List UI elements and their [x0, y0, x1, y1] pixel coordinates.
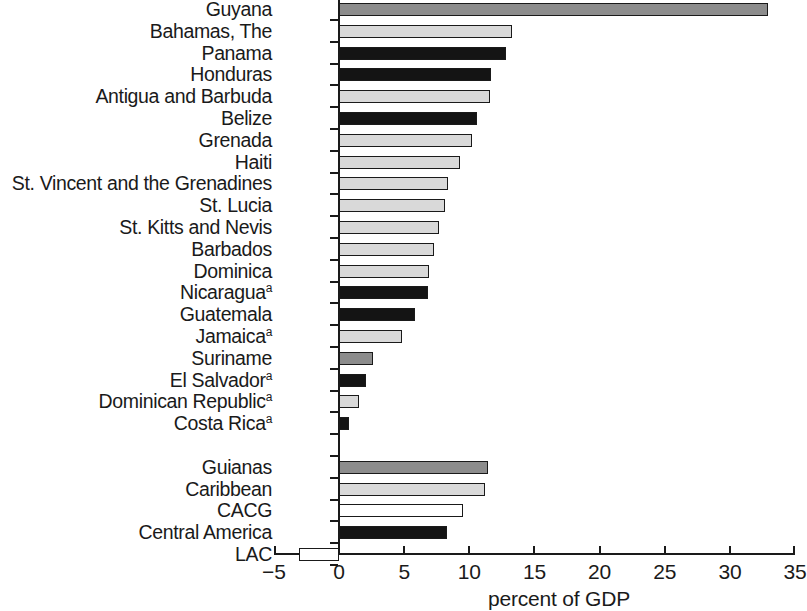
category-label: St. Kitts and Nevis: [119, 217, 272, 237]
y-tick: [330, 390, 338, 392]
footnote-marker: a: [266, 412, 272, 426]
bar: [339, 68, 491, 81]
bar: [339, 47, 506, 60]
category-label: Costa Ricaa: [174, 413, 272, 433]
x-axis-right-cap: [793, 546, 795, 553]
bar: [339, 243, 434, 256]
category-label: Suriname: [191, 348, 272, 368]
y-tick: [330, 41, 338, 43]
category-label: Belize: [221, 108, 272, 128]
y-tick: [330, 128, 338, 130]
bar: [339, 286, 428, 299]
y-tick: [330, 324, 338, 326]
x-tick-label: −5: [244, 561, 304, 583]
y-tick: [330, 19, 338, 21]
y-tick: [330, 106, 338, 108]
y-tick: [330, 499, 338, 501]
bar: [339, 134, 472, 147]
category-label: El Salvadora: [170, 370, 272, 390]
category-label: Caribbean: [185, 479, 272, 499]
bar: [339, 265, 429, 278]
x-tick-label: 20: [570, 561, 630, 583]
x-axis-line: [274, 553, 795, 555]
bar: [339, 25, 512, 38]
category-label: St. Lucia: [199, 195, 272, 215]
y-tick: [330, 477, 338, 479]
bar: [339, 221, 439, 234]
x-tick: [729, 546, 731, 553]
category-label: Guyana: [206, 0, 272, 19]
category-label: Guianas: [202, 457, 272, 477]
bar: [339, 199, 445, 212]
y-tick: [330, 259, 338, 261]
bar: [339, 352, 373, 365]
x-tick: [599, 546, 601, 553]
bar: [339, 330, 402, 343]
bar: [339, 308, 415, 321]
y-tick: [330, 63, 338, 65]
category-label: Central America: [139, 522, 272, 542]
y-tick: [330, 302, 338, 304]
y-tick: [330, 542, 338, 544]
footnote-marker: a: [266, 390, 272, 404]
x-axis-title: percent of GDP: [439, 588, 679, 610]
bar: [339, 90, 490, 103]
y-tick: [330, 193, 338, 195]
x-tick-label: 5: [374, 561, 434, 583]
category-label: Grenada: [199, 130, 272, 150]
y-tick-separator: [330, 455, 338, 457]
category-label: Panama: [201, 43, 272, 63]
category-label: Honduras: [190, 64, 272, 84]
category-label: Dominica: [194, 261, 272, 281]
x-tick-label: 25: [635, 561, 695, 583]
y-tick: [330, 150, 338, 152]
bar: [339, 417, 349, 430]
x-tick: [338, 546, 340, 553]
x-tick-label: 35: [765, 561, 807, 583]
x-tick: [533, 546, 535, 553]
y-tick: [330, 433, 338, 435]
category-label: St. Vincent and the Grenadines: [12, 173, 272, 193]
x-tick: [468, 546, 470, 553]
category-label: Dominican Republica: [99, 391, 272, 411]
x-tick-label: 10: [439, 561, 499, 583]
bar-chart: GuyanaBahamas, ThePanamaHondurasAntigua …: [0, 0, 807, 611]
y-tick: [330, 520, 338, 522]
bar: [339, 3, 768, 16]
footnote-marker: a: [266, 281, 272, 295]
y-tick: [330, 172, 338, 174]
bar: [339, 483, 485, 496]
category-label: CACG: [217, 500, 272, 520]
bar: [339, 395, 359, 408]
footnote-marker: a: [266, 325, 272, 339]
x-tick: [664, 546, 666, 553]
y-tick: [330, 281, 338, 283]
category-label: Jamaicaa: [196, 326, 273, 346]
category-label: Haiti: [235, 152, 272, 172]
bar: [339, 461, 488, 474]
x-tick: [403, 546, 405, 553]
bar: [339, 374, 366, 387]
y-tick: [330, 411, 338, 413]
y-tick: [330, 368, 338, 370]
category-label: Guatemala: [180, 304, 272, 324]
plot-area: GuyanaBahamas, ThePanamaHondurasAntigua …: [0, 0, 807, 611]
x-tick-label: 15: [504, 561, 564, 583]
category-label: Bahamas, The: [150, 21, 272, 41]
x-tick-label: 0: [309, 561, 369, 583]
category-label: Antigua and Barbuda: [95, 86, 272, 106]
category-label: Nicaraguaa: [180, 282, 272, 302]
bar: [339, 112, 477, 125]
bar: [339, 526, 447, 539]
bar: [339, 504, 463, 517]
category-label: Barbados: [191, 239, 272, 259]
bar: [339, 177, 448, 190]
bar: [339, 156, 460, 169]
y-tick: [330, 346, 338, 348]
x-tick-label: 30: [700, 561, 760, 583]
y-tick: [330, 215, 338, 217]
footnote-marker: a: [266, 368, 272, 382]
y-tick: [330, 237, 338, 239]
x-axis-left-cap: [274, 546, 276, 553]
y-tick: [330, 84, 338, 86]
